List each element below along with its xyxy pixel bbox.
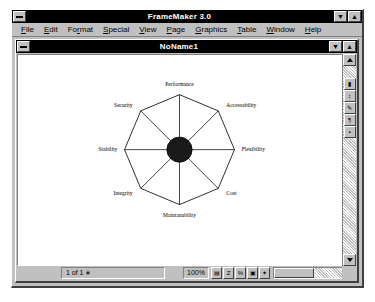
document-vertical-scrollbar[interactable]: ▮ ↕ ✎ ¶ ▪ [342,54,356,266]
menu-item-window[interactable]: Window [261,23,299,36]
page-down-tool[interactable]: ↕ [344,90,356,102]
app-maximize-button[interactable]: ▲ [348,11,361,22]
label-accessability: Accessability [226,102,256,108]
menu-item-file[interactable]: File [16,23,39,36]
pencil-tool[interactable]: ✎ [344,102,356,114]
menu-item-help[interactable]: Help [300,23,326,36]
app-system-menu-button[interactable] [13,11,26,22]
page-down-icon: ↕ [345,91,355,101]
diagram-svg: Performance Accessability Flexibility Co… [18,55,341,265]
label-cost: Cost [226,190,237,196]
fit-page-icon: ▣ [248,268,257,278]
chevron-down-icon: ▼ [330,42,341,51]
zoom-enlarge-button[interactable]: % [235,267,246,279]
app-minimize-button[interactable]: ▼ [334,11,347,22]
octagon-radar-diagram[interactable]: Performance Accessability Flexibility Co… [18,55,341,265]
document-titlebar: NoName1 ▼ ▲ [16,40,357,53]
document-minimize-button[interactable]: ▼ [329,41,342,52]
app-title: FrameMaker 3.0 [26,10,333,23]
app-titlebar: FrameMaker 3.0 ▼ ▲ [12,10,362,23]
menu-item-view[interactable]: View [134,23,161,36]
horizontal-scroll-thumb[interactable] [274,268,314,278]
document-window: NoName1 ▼ ▲ [15,39,359,283]
menu-item-table[interactable]: Table [232,23,261,36]
zoom-fit-page-button[interactable]: ▣ [247,267,258,279]
text-flow-tool[interactable]: ¶ [344,114,356,126]
scroll-up-button[interactable] [343,54,356,66]
scrollbar-corner [342,266,356,280]
zoom-set-icon: ✦ [260,268,269,278]
marker-tool[interactable]: ▪ [344,126,356,138]
triangle-down-icon [347,258,353,262]
label-integrity: Integrity [113,190,132,196]
tool-palette-strip: ▮ ↕ ✎ ¶ ▪ [343,78,356,138]
paragraph-icon: ¶ [345,115,355,125]
page-up-tool[interactable]: ▮ [344,78,356,90]
document-window-buttons: ▼ ▲ [328,41,356,52]
triangle-up-icon [347,58,353,62]
label-performance: Performance [165,81,194,87]
page-up-icon: ▮ [345,79,355,89]
chevron-up-icon: ▲ [344,42,355,51]
document-title: NoName1 [30,40,328,53]
marker-icon: ▪ [345,127,355,137]
label-security: Security [114,102,133,108]
zoom-out-icon: Z [224,268,233,278]
menu-item-edit[interactable]: Edit [39,23,63,36]
scroll-down-button[interactable] [343,254,356,266]
fit-window-icon: ▤ [212,268,221,278]
page-indicator: 1 of 1 ∗ [61,267,165,279]
pencil-icon: ✎ [345,103,355,113]
label-stability: Stability [98,146,117,152]
document-maximize-button[interactable]: ▲ [343,41,356,52]
application-window: FrameMaker 3.0 ▼ ▲ File Edit Format Spec… [11,9,364,288]
app-window-buttons: ▼ ▲ [333,11,361,22]
chevron-up-icon: ▲ [349,12,360,21]
chevron-down-icon: ▼ [335,12,346,21]
zoom-in-icon: % [236,268,245,278]
document-system-menu-button[interactable] [17,41,30,52]
zoom-button-group: ▤ Z % ▣ ✦ [211,267,271,279]
hub-circle [167,137,192,162]
menu-item-page[interactable]: Page [162,23,191,36]
menu-item-special[interactable]: Special [98,23,134,36]
label-flexibility: Flexibility [242,146,265,152]
menu-item-format[interactable]: Format [63,23,98,36]
zoom-value-field[interactable]: 100% [183,267,209,279]
zoom-set-button[interactable]: ✦ [259,267,270,279]
document-client-area: Performance Accessability Flexibility Co… [17,54,356,280]
menu-bar: File Edit Format Special View Page Graph… [12,23,362,37]
menu-item-graphics[interactable]: Graphics [190,23,232,36]
vertical-scroll-track[interactable]: ▮ ↕ ✎ ¶ ▪ [343,66,356,254]
zoom-reduce-button[interactable]: Z [223,267,234,279]
status-bar: 1 of 1 ∗ 100% ▤ Z % ▣ [17,266,356,280]
zoom-fit-window-button[interactable]: ▤ [211,267,222,279]
page-canvas[interactable]: Performance Accessability Flexibility Co… [17,54,342,266]
label-maintanability: Maintanability [163,212,196,218]
